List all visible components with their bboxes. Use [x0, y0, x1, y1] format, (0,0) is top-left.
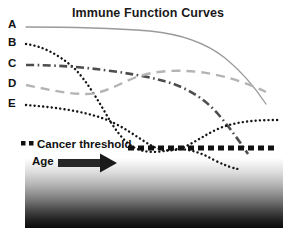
plot-area — [0, 0, 296, 233]
age-arrow-icon — [58, 154, 117, 173]
immune-function-curves-figure: Immune Function Curves A B C D E Cancer … — [0, 0, 296, 233]
curve-d-line — [26, 71, 266, 94]
curve-label-d: D — [8, 78, 16, 90]
curve-label-a: A — [8, 19, 16, 31]
cancer-threshold-legend-label: Cancer threshold — [37, 138, 132, 150]
curve-label-b: B — [8, 37, 16, 49]
cancer-threshold-swatch — [21, 141, 34, 146]
curve-label-e: E — [8, 98, 16, 110]
age-legend-label: Age — [32, 155, 54, 167]
curve-label-c: C — [8, 58, 16, 70]
